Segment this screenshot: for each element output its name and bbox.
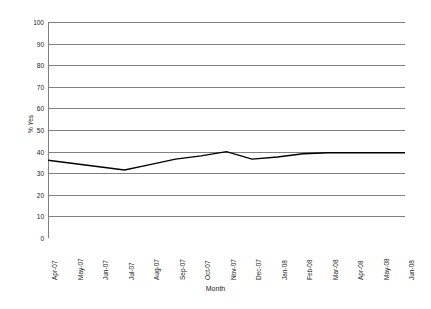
x-tick-label: Jul-07 (128, 234, 136, 280)
x-axis-title: Month (0, 285, 431, 292)
plot-area (48, 22, 405, 238)
plot-svg (48, 22, 405, 238)
x-axis-tick-labels: Apr-07May-07Jun-07Jul-07Aug-07Sep-07Oct-… (48, 240, 405, 282)
y-tick-label: 100 (24, 19, 44, 26)
y-tick-label: 0 (24, 235, 44, 242)
data-series-line (48, 152, 405, 170)
y-tick-label: 40 (24, 148, 44, 155)
line-chart: % Yes 1009080706050403020100 Apr-07May-0… (0, 0, 431, 309)
gridlines (48, 23, 405, 239)
y-axis-tick-labels: 1009080706050403020100 (24, 16, 44, 240)
y-tick-label: 50 (24, 127, 44, 134)
x-tick-label: Mar-08 (332, 234, 340, 280)
y-tick-label: 70 (24, 83, 44, 90)
y-tick-label: 10 (24, 213, 44, 220)
x-tick-label: Jun-08 (408, 234, 416, 280)
y-tick-label: 30 (24, 170, 44, 177)
y-tick-label: 90 (24, 40, 44, 47)
x-tick-label: Apr-08 (357, 234, 365, 280)
y-tick-label: 20 (24, 191, 44, 198)
x-tick-label: Aug-07 (153, 234, 161, 280)
y-tick-label: 60 (24, 105, 44, 112)
x-tick-label: May-08 (383, 234, 391, 280)
x-tick-label: Apr-07 (51, 234, 59, 280)
x-tick-label: Jun-07 (102, 234, 110, 280)
x-tick-label: Feb-08 (306, 234, 314, 280)
x-tick-label: Dec-07 (255, 234, 263, 280)
x-tick-label: Jan-08 (281, 234, 289, 280)
x-tick-label: Oct-07 (204, 234, 212, 280)
x-tick-label: May-07 (77, 234, 85, 280)
x-tick-label: Sep-07 (179, 234, 187, 280)
y-tick-label: 80 (24, 62, 44, 69)
x-tick-label: Nov-07 (230, 234, 238, 280)
